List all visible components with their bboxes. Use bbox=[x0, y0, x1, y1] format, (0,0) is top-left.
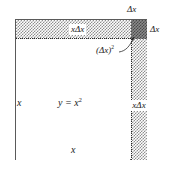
label-side-bottom: x bbox=[71, 145, 75, 155]
label-area-equation-exponent: 2 bbox=[79, 96, 82, 103]
label-top-strip-area: xΔx bbox=[69, 24, 86, 35]
square-decomposition-diagram: xΔx xΔx Δx Δx (Δx)2 y = x2 x x bbox=[0, 0, 172, 173]
label-right-strip-area: xΔx bbox=[131, 100, 147, 111]
label-corner-square-base: (Δx) bbox=[96, 45, 111, 55]
label-delta-x-top: Δx bbox=[127, 5, 136, 14]
label-corner-square-area: (Δx)2 bbox=[96, 46, 114, 55]
label-delta-x-right: Δx bbox=[150, 25, 159, 34]
label-area-equation-base: y = x bbox=[58, 97, 79, 108]
label-side-left: x bbox=[17, 98, 21, 108]
region-corner-square bbox=[131, 20, 147, 39]
label-area-equation: y = x2 bbox=[58, 98, 82, 108]
label-corner-square-exponent: 2 bbox=[111, 44, 114, 50]
